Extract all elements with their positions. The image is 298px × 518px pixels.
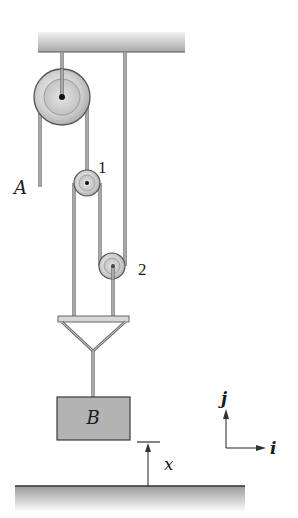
axis-j-label: j [218,388,228,408]
pulley-1-label: 1 [98,158,107,177]
block-b: B [57,397,130,440]
pulley-1 [74,170,100,196]
pulley-2-label: 2 [138,260,147,279]
displacement-indicator: x [137,442,174,486]
bridle [62,322,125,397]
top-pulley [34,69,90,125]
block-label: B [85,407,99,428]
pulley-2 [99,253,125,279]
rope-end-label: A [12,177,27,198]
displacement-label: x [164,454,174,474]
pulley-diagram: B A 1 2 x j i [0,0,298,518]
ceiling-support [38,32,185,52]
ground [15,486,245,512]
axis-i-label: i [270,438,276,458]
coordinate-axes: j i [218,388,276,458]
spreader-bar [58,316,129,397]
arrow-up-icon [145,443,151,452]
axis-i-arrow-icon [256,445,266,451]
axis-j-arrow-icon [223,409,229,419]
